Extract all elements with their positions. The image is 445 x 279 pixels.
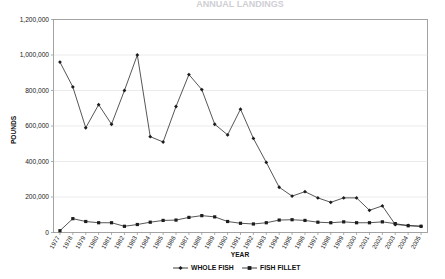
chart-legend: WHOLE FISHFISH FILLET	[173, 264, 301, 271]
data-point-marker-square	[123, 225, 126, 228]
x-axis-tick-label: 1989	[203, 234, 216, 250]
x-axis-tick-label: 1986	[164, 234, 177, 250]
x-axis-tick-label: 1992	[241, 234, 254, 250]
x-axis-tick-label: 1985	[151, 234, 164, 250]
y-axis-tick-label: 200,000	[25, 193, 49, 200]
y-axis-title: POUNDS	[10, 115, 17, 144]
x-axis-tick-label: 2004	[396, 234, 409, 250]
data-point-marker-square	[149, 221, 152, 224]
data-point-marker-square	[226, 220, 229, 223]
y-axis-tick-label: 600,000	[25, 122, 49, 129]
y-axis-tick-labels: 0200,000400,000600,000800,0001,000,0001,…	[20, 16, 50, 236]
x-axis-tick-label: 1977	[48, 234, 61, 250]
data-point-marker-square	[368, 221, 371, 224]
data-point-marker-square	[136, 223, 139, 226]
x-axis-tick-label: 1979	[74, 234, 87, 250]
data-point-marker-square	[329, 221, 332, 224]
chart-container: ANNUAL LANDINGS 0200,000400,000600,00080…	[0, 0, 445, 279]
y-axis-tick-label: 1,000,000	[20, 51, 50, 58]
data-point-marker-square	[316, 221, 319, 224]
data-point-marker-square	[200, 214, 203, 217]
chart-title: ANNUAL LANDINGS	[196, 0, 283, 9]
x-axis-tick-label: 1978	[61, 234, 74, 250]
x-axis-tick-label: 1982	[112, 234, 125, 250]
legend-label: WHOLE FISH	[191, 264, 234, 271]
x-axis-tick-label: 1994	[267, 234, 280, 250]
x-axis-tick-label: 1981	[99, 234, 112, 250]
data-point-marker-square	[174, 218, 177, 221]
x-axis-tick-label: 1984	[138, 234, 151, 250]
x-axis-tick-label: 1998	[319, 234, 332, 250]
data-point-marker-square	[58, 229, 61, 232]
x-axis-tick-label: 2002	[370, 234, 383, 250]
data-point-marker-square	[342, 220, 345, 223]
x-axis-tick-label: 2003	[383, 234, 396, 250]
legend-item-whole-fish[interactable]: WHOLE FISH	[173, 264, 234, 271]
x-axis-tick-label: 1999	[332, 234, 345, 250]
data-point-marker-square	[419, 225, 422, 228]
legend-item-fish-fillet[interactable]: FISH FILLET	[242, 264, 301, 271]
x-axis-tick-label: 1991	[228, 234, 241, 250]
data-point-marker-square	[290, 218, 293, 221]
x-axis-tick-label: 1983	[125, 234, 138, 250]
line-chart: ANNUAL LANDINGS 0200,000400,000600,00080…	[0, 0, 445, 279]
data-point-marker-square	[97, 221, 100, 224]
legend-label: FISH FILLET	[260, 264, 301, 271]
y-axis-tick-label: 1,200,000	[20, 16, 50, 23]
data-point-marker-square	[355, 221, 358, 224]
data-point-marker-square	[252, 222, 255, 225]
x-axis-title: YEAR	[231, 251, 250, 258]
x-axis-tick-label: 1990	[216, 234, 229, 250]
data-point-marker-square	[394, 222, 397, 225]
x-axis-tick-label: 1997	[306, 234, 319, 250]
x-axis-tick-label: 1993	[254, 234, 267, 250]
x-axis-tick-label: 1996	[293, 234, 306, 250]
data-point-marker-square	[162, 219, 165, 222]
data-point-marker-square	[187, 216, 190, 219]
data-point-marker-square	[303, 219, 306, 222]
data-point-marker-square	[213, 215, 216, 218]
y-axis-tick-label: 400,000	[25, 158, 49, 165]
data-point-marker-square	[71, 217, 74, 220]
y-axis-tick-label: 800,000	[25, 87, 49, 94]
data-point-marker-square	[110, 221, 113, 224]
y-axis-tick-label: 0	[45, 229, 49, 236]
data-point-marker-square	[84, 220, 87, 223]
data-point-marker-square	[278, 218, 281, 221]
data-point-marker-square	[407, 224, 410, 227]
x-axis-tick-labels: 1977197819791980198119821983198419851986…	[48, 234, 422, 250]
x-axis-tick-label: 1987	[177, 234, 190, 250]
x-axis-tick-label: 2005	[409, 234, 422, 250]
x-axis-tick-label: 1988	[190, 234, 203, 250]
x-axis-tick-label: 2001	[357, 234, 370, 250]
data-point-marker-square	[239, 222, 242, 225]
legend-marker-square	[248, 266, 252, 270]
data-point-marker-square	[381, 220, 384, 223]
x-axis-tick-label: 2000	[344, 234, 357, 250]
x-axis-tick-label: 1980	[87, 234, 100, 250]
x-axis-tick-label: 1995	[280, 234, 293, 250]
data-point-marker-square	[265, 221, 268, 224]
legend-marker-diamond	[178, 266, 182, 270]
